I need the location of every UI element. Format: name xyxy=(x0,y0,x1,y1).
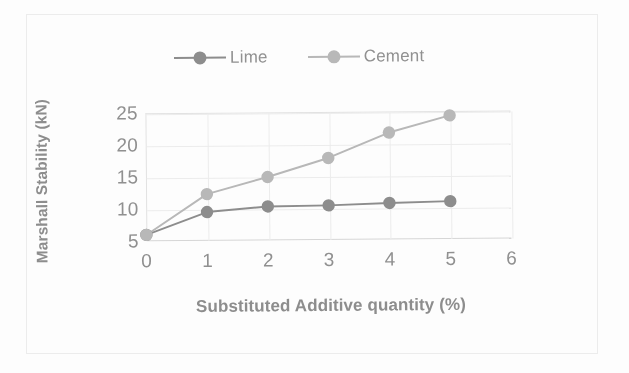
y-tick-label: 5 xyxy=(128,230,139,252)
data-point-cement-3[interactable] xyxy=(322,152,334,164)
x-tick-label: 6 xyxy=(506,247,517,269)
figure-canvas: Lime Cement 510152025 0123456 Marshall S… xyxy=(0,0,629,373)
gridline-vertical xyxy=(511,111,513,238)
data-point-cement-1[interactable] xyxy=(201,188,213,200)
y-tick-label: 20 xyxy=(116,134,137,156)
y-tick-label: 15 xyxy=(117,166,138,188)
y-axis-tick-labels: 510152025 xyxy=(95,113,138,241)
x-tick-label: 0 xyxy=(141,250,152,272)
data-point-lime-4[interactable] xyxy=(383,197,395,209)
data-point-lime-2[interactable] xyxy=(262,200,274,212)
data-point-cement-2[interactable] xyxy=(261,171,273,183)
data-point-cement-0[interactable] xyxy=(140,229,152,241)
x-axis-tick-labels: 0123456 xyxy=(146,247,511,276)
x-tick-label: 1 xyxy=(202,250,213,272)
y-tick-label: 10 xyxy=(117,198,138,220)
series-line-lime xyxy=(146,201,450,235)
data-point-lime-1[interactable] xyxy=(201,206,213,218)
data-point-lime-5[interactable] xyxy=(444,195,456,207)
series-layer xyxy=(145,110,511,241)
x-tick-label: 3 xyxy=(324,249,335,271)
legend-label-lime: Lime xyxy=(230,47,268,67)
legend-marker-cement xyxy=(327,50,340,63)
x-tick-label: 5 xyxy=(445,248,456,270)
x-tick-label: 4 xyxy=(385,248,396,270)
y-tick-label: 25 xyxy=(116,102,137,124)
x-tick-label: 2 xyxy=(263,249,274,271)
line-chart: Lime Cement 510152025 0123456 Marshall S… xyxy=(0,0,629,373)
legend-marker-lime xyxy=(193,51,206,64)
y-axis-title: Marshall Stability (kN) xyxy=(32,76,52,286)
x-axis-title: Substituted Additive quantity (%) xyxy=(111,294,551,317)
legend-label-cement: Cement xyxy=(364,46,425,66)
legend-item-lime[interactable]: Lime xyxy=(174,47,268,68)
data-point-cement-5[interactable] xyxy=(443,109,455,121)
data-point-lime-3[interactable] xyxy=(322,199,334,211)
data-point-cement-4[interactable] xyxy=(383,126,395,138)
legend-item-cement[interactable]: Cement xyxy=(308,46,425,67)
plot-area-wrapper xyxy=(145,110,511,241)
chart-legend: Lime Cement xyxy=(174,43,425,71)
